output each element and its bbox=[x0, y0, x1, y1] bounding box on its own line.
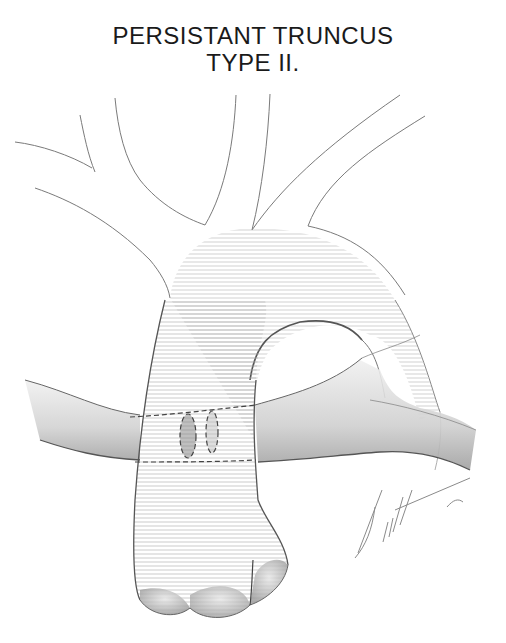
truncus-illustration bbox=[0, 0, 506, 643]
artist-signature bbox=[355, 478, 470, 558]
